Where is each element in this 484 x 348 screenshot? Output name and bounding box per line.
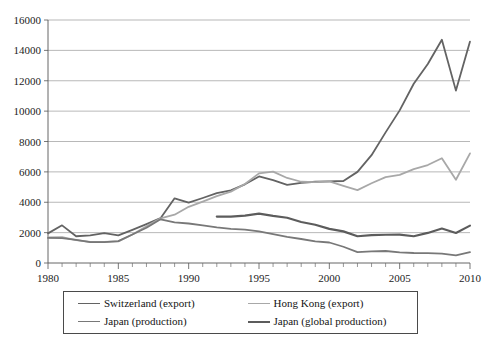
legend-label: Switzerland (export) xyxy=(104,297,195,310)
data-series xyxy=(48,40,470,256)
series-line-1 xyxy=(48,153,470,242)
y-tick-label: 4000 xyxy=(19,196,42,208)
legend-line-swatch-icon xyxy=(248,321,270,323)
legend-line-swatch-icon xyxy=(248,303,270,304)
y-tick-label: 8000 xyxy=(19,136,42,148)
legend-label: Japan (production) xyxy=(104,315,187,328)
x-tick-label: 1980 xyxy=(37,272,60,284)
plot-area: 0200040006000800010000120001400016000 19… xyxy=(0,0,484,290)
line-chart: 0200040006000800010000120001400016000 19… xyxy=(0,0,484,348)
y-tick-label: 12000 xyxy=(14,75,42,87)
y-tick-label: 16000 xyxy=(14,14,42,26)
y-tick-label: 10000 xyxy=(14,105,42,117)
y-tick-label: 14000 xyxy=(14,44,42,56)
x-tick-label: 2005 xyxy=(389,272,412,284)
y-tick-label: 0 xyxy=(36,257,42,269)
legend-item: Japan (global production) xyxy=(248,315,418,328)
x-tick-label: 2000 xyxy=(318,272,341,284)
series-line-2 xyxy=(48,219,470,255)
series-line-0 xyxy=(48,40,470,237)
y-tick-label: 6000 xyxy=(19,166,42,178)
y-axis-tick-labels: 0200040006000800010000120001400016000 xyxy=(14,14,42,269)
y-tick-label: 2000 xyxy=(19,227,42,239)
legend-item: Hong Kong (export) xyxy=(248,297,418,310)
x-tick-label: 2010 xyxy=(459,272,482,284)
x-tick-label: 1995 xyxy=(248,272,271,284)
chart-canvas: 0200040006000800010000120001400016000 19… xyxy=(0,0,484,290)
legend-line-swatch-icon xyxy=(78,321,100,322)
legend-label: Japan (global production) xyxy=(274,315,387,328)
legend-item: Switzerland (export) xyxy=(78,297,248,310)
x-tick-label: 1985 xyxy=(107,272,130,284)
x-axis-tick-labels: 1980198519901995200020052010 xyxy=(37,272,482,284)
legend: Switzerland (export)Hong Kong (export)Ja… xyxy=(63,291,418,334)
gridlines xyxy=(48,20,470,233)
x-tick-label: 1990 xyxy=(178,272,201,284)
legend-label: Hong Kong (export) xyxy=(274,297,364,310)
legend-line-swatch-icon xyxy=(78,303,100,304)
legend-item: Japan (production) xyxy=(78,315,248,328)
